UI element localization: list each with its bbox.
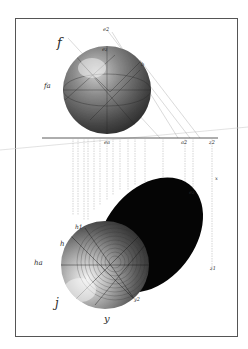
label-a2: a2 [181,139,187,145]
label-y2: y2 [133,296,140,303]
label-ea: ea [104,139,110,145]
label-h: h [60,240,65,248]
label-z1: z1 [209,265,216,271]
upper-sphere [60,45,155,135]
label-f: f [56,35,64,50]
engraving-plate: f fa e2 ez b ea a2 z2 x ez z1 h1 h ha j … [0,0,248,349]
label-ez-shadow: ez [189,189,195,195]
label-ez-top: ez [102,46,108,52]
label-z2: z2 [208,139,215,145]
label-ha: ha [34,259,43,267]
label-fa: fa [43,82,51,90]
label-x: x [215,175,218,181]
label-h1: h1 [75,223,83,230]
label-b: b [141,61,144,67]
label-e2: e2 [103,26,109,32]
label-y: y [103,313,110,324]
label-j: j [52,296,59,310]
